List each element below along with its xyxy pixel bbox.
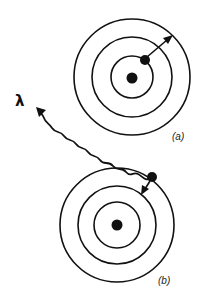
nucleus-a [127, 73, 138, 84]
panel-a-atom: (a) [74, 19, 190, 142]
excitation-arrow-a [147, 35, 173, 57]
panel-label-a: (a) [172, 131, 184, 142]
bohr-atom-diagram: (a) (b) λ [0, 0, 201, 295]
photon-arrowhead-icon [36, 107, 46, 117]
arrowhead-down-left-icon [141, 185, 149, 195]
wavelength-lambda-label: λ [15, 92, 25, 110]
electron-b [147, 172, 157, 182]
nucleus-b [112, 220, 123, 231]
decay-arrow-b [141, 181, 150, 195]
panel-label-b: (b) [158, 275, 170, 286]
panel-b-atom: (b) [60, 168, 174, 286]
